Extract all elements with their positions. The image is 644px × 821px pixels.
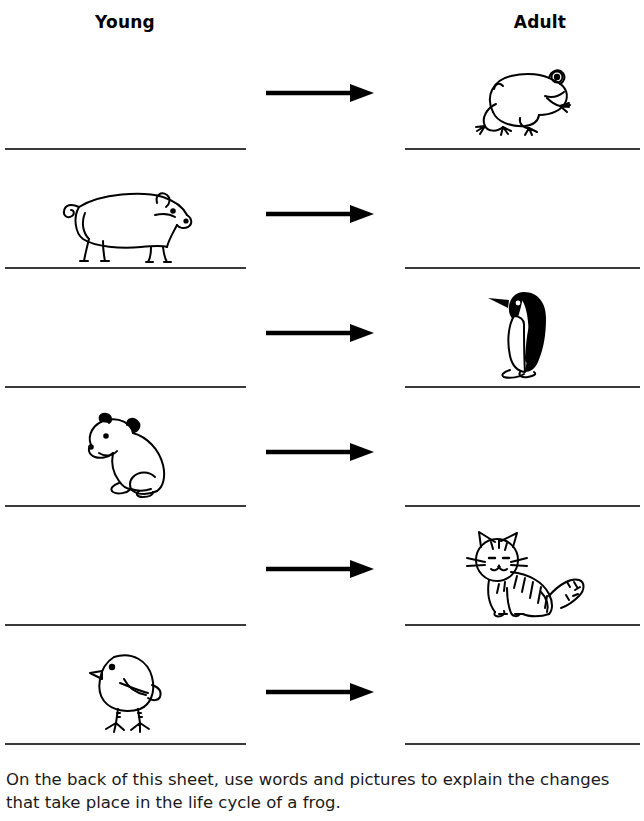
row-divider-line	[405, 624, 640, 626]
instruction-line-1: On the back of this sheet, use words and…	[6, 768, 638, 791]
young-cell	[5, 403, 246, 507]
instruction-line-2: that take place in the life cycle of a f…	[6, 791, 638, 814]
adult-cell	[405, 165, 640, 269]
table-row	[0, 641, 644, 760]
adult-cell	[405, 46, 640, 150]
adult-cell	[405, 641, 640, 745]
frog-icon	[405, 46, 640, 144]
row-divider-line	[5, 267, 246, 269]
penguin-icon	[405, 284, 640, 382]
arrow-right-icon	[266, 82, 374, 104]
cat-icon	[405, 522, 640, 620]
blank-answer-area[interactable]	[5, 522, 246, 620]
answer-line[interactable]	[405, 505, 640, 507]
arrow-right-icon	[266, 558, 374, 580]
answer-line[interactable]	[5, 386, 246, 388]
answer-line[interactable]	[405, 267, 640, 269]
column-headers: Young Adult	[0, 12, 644, 46]
young-cell	[5, 284, 246, 388]
arrow-right-icon	[266, 681, 374, 703]
column-header-adult: Adult	[455, 12, 625, 32]
row-divider-line	[5, 743, 246, 745]
table-row	[0, 522, 644, 641]
adult-cell	[405, 403, 640, 507]
table-row	[0, 165, 644, 284]
answer-line[interactable]	[405, 743, 640, 745]
blank-answer-area[interactable]	[405, 165, 640, 263]
blank-answer-area[interactable]	[5, 46, 246, 144]
arrow-right-icon	[266, 203, 374, 225]
adult-cell	[405, 284, 640, 388]
table-row	[0, 46, 644, 165]
arrow-right-icon	[266, 322, 374, 344]
bear-cub-icon	[5, 403, 246, 501]
arrow-right-icon	[266, 441, 374, 463]
answer-line[interactable]	[5, 148, 246, 150]
young-cell	[5, 522, 246, 626]
row-divider-line	[405, 386, 640, 388]
blank-answer-area[interactable]	[5, 284, 246, 382]
young-cell	[5, 46, 246, 150]
table-row	[0, 403, 644, 522]
instruction-text: On the back of this sheet, use words and…	[6, 768, 638, 814]
adult-cell	[405, 522, 640, 626]
piglet-icon	[5, 165, 246, 263]
column-header-young: Young	[55, 12, 195, 32]
table-row	[0, 284, 644, 403]
young-cell	[5, 641, 246, 745]
chick-icon	[5, 641, 246, 739]
row-divider-line	[5, 505, 246, 507]
blank-answer-area[interactable]	[405, 641, 640, 739]
answer-line[interactable]	[5, 624, 246, 626]
blank-answer-area[interactable]	[405, 403, 640, 501]
young-cell	[5, 165, 246, 269]
row-divider-line	[405, 148, 640, 150]
